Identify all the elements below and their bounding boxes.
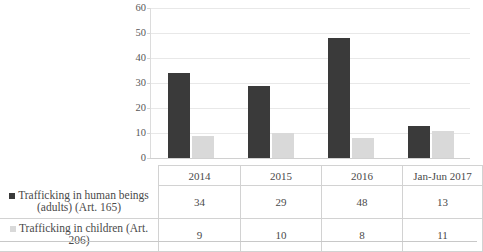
- y-axis-tick-label: 60: [118, 3, 146, 13]
- y-axis-tick-label: 10: [118, 128, 146, 138]
- table-header-row: 2014 2015 2016 Jan-Jun 2017: [0, 166, 483, 186]
- chart-data-table: 2014 2015 2016 Jan-Jun 2017 Trafficking …: [0, 165, 477, 243]
- table-cell: 9: [159, 218, 241, 251]
- gridline-20: [150, 108, 470, 109]
- table-cell: 29: [241, 186, 322, 219]
- y-axis-tick-label: 20: [118, 103, 146, 113]
- legend-entry-series2: Trafficking in children (Art.206): [0, 218, 159, 251]
- y-axis: 60 50 40 30 20 10 0: [118, 0, 146, 165]
- legend-label-series1-line2: (adults) (Art. 165): [37, 201, 121, 213]
- bar-series2-2014: [192, 136, 214, 159]
- gridline-60: [150, 8, 470, 9]
- gridline-0-baseline: [150, 158, 470, 159]
- table-cell: 13: [403, 186, 483, 219]
- y-axis-tick-label: 0: [118, 153, 146, 163]
- y-axis-line: [150, 8, 151, 158]
- y-axis-tick-label: 40: [118, 53, 146, 63]
- table-cell: 48: [322, 186, 403, 219]
- table-row: Trafficking in children (Art.206) 9 10 8…: [0, 218, 483, 251]
- table-row: Trafficking in human beings(adults) (Art…: [0, 186, 483, 219]
- table-header-2015: 2015: [241, 166, 322, 186]
- bar-series2-janjun2017: [432, 131, 454, 159]
- legend-label-series2-line2: 206): [68, 234, 89, 246]
- gridline-30: [150, 83, 470, 84]
- table-corner-cell: [0, 166, 159, 186]
- table-cell: 11: [403, 218, 483, 251]
- series-1-swatch-icon: [9, 193, 15, 199]
- legend-label-series2-line1: Trafficking in children (Art.: [19, 222, 148, 234]
- legend-entry-series1: Trafficking in human beings(adults) (Art…: [0, 186, 159, 219]
- gridline-50: [150, 33, 470, 34]
- table-header-2014: 2014: [159, 166, 241, 186]
- bar-series1-2015: [248, 86, 270, 159]
- bar-series1-janjun2017: [408, 126, 430, 159]
- y-axis-tick-label: 50: [118, 28, 146, 38]
- bar-series2-2015: [272, 133, 294, 158]
- legend-label-series1-line1: Trafficking in human beings: [18, 189, 149, 201]
- bar-series2-2016: [352, 138, 374, 158]
- y-axis-tick-label: 30: [118, 78, 146, 88]
- table-header-janjun2017: Jan-Jun 2017: [403, 166, 483, 186]
- plot-region: 60 50 40 30 20 10 0: [0, 0, 477, 165]
- plot-area: [150, 8, 470, 158]
- table-cell: 10: [241, 218, 322, 251]
- table-header-2016: 2016: [322, 166, 403, 186]
- table-cell: 34: [159, 186, 241, 219]
- table-cell: 8: [322, 218, 403, 251]
- data-table: 2014 2015 2016 Jan-Jun 2017 Trafficking …: [0, 165, 483, 252]
- bar-series1-2016: [328, 38, 350, 158]
- bottom-divider: [0, 241, 477, 242]
- series-2-swatch-icon: [10, 226, 16, 232]
- bar-series1-2014: [168, 73, 190, 158]
- gridline-40: [150, 58, 470, 59]
